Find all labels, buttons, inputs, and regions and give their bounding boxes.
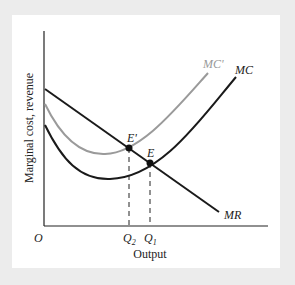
label-e: E: [146, 146, 155, 160]
chart-svg: MC' MC MR E' E O Q2 Q1 Output Marginal c…: [0, 0, 295, 285]
x-axis-title: Output: [133, 247, 167, 261]
label-mc: MC: [234, 63, 254, 77]
mr-line: [45, 89, 219, 212]
label-q2: Q2: [123, 231, 136, 247]
mc-curve: [45, 77, 236, 179]
label-origin: O: [34, 231, 43, 245]
label-q1: Q1: [144, 231, 157, 247]
label-mc-prime: MC': [202, 57, 224, 71]
y-axis-title: Marginal cost, revenue: [22, 73, 36, 183]
point-e-prime: [126, 145, 133, 152]
point-e: [147, 160, 154, 167]
label-mr: MR: [223, 208, 242, 222]
label-e-prime: E': [126, 131, 137, 145]
